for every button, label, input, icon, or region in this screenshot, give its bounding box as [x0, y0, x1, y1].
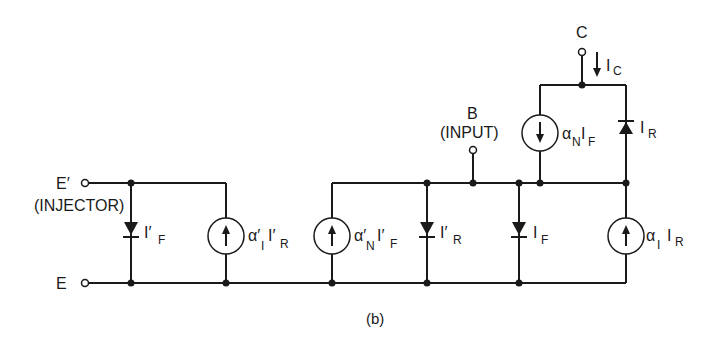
svg-text:I′: I′: [440, 224, 447, 241]
diode-icon: [619, 122, 633, 134]
terminal-e-label: E: [56, 275, 67, 292]
svg-text:C: C: [613, 64, 622, 78]
figure-caption: (b): [366, 310, 384, 327]
diode-icon: [124, 222, 138, 235]
terminal-e-prime-label: E′: [56, 175, 70, 192]
terminal-e-prime[interactable]: E′ (INJECTOR): [34, 175, 124, 214]
terminal-e[interactable]: E: [56, 275, 89, 292]
terminal-b-label: B: [467, 105, 478, 122]
diode-icon: [420, 222, 434, 235]
terminal-c[interactable]: C: [576, 24, 588, 56]
arrow-down-icon: [593, 68, 601, 77]
svg-text:I: I: [261, 239, 264, 253]
terminal-e-prime-sublabel: (INJECTOR): [34, 197, 124, 214]
diode-icon: [512, 222, 526, 235]
svg-text:N: N: [366, 239, 375, 253]
svg-text:N: N: [572, 135, 581, 149]
svg-text:F: F: [541, 233, 548, 247]
svg-text:I′: I′: [268, 227, 275, 244]
svg-text:α′: α′: [354, 227, 366, 244]
source-alpha-n-prime: α′ N I′ F: [314, 218, 397, 254]
wires: [89, 55, 626, 283]
terminal-b-sublabel: (INPUT): [440, 124, 499, 141]
svg-text:I: I: [667, 227, 671, 244]
svg-text:R: R: [648, 127, 657, 141]
svg-text:I: I: [606, 57, 610, 74]
svg-text:α: α: [646, 227, 655, 244]
svg-text:R: R: [280, 237, 289, 251]
source-alpha-i-prime: α′ I I′ R: [208, 218, 289, 254]
svg-text:F: F: [158, 233, 165, 247]
svg-text:α: α: [562, 125, 571, 142]
terminal-c-label: C: [576, 24, 588, 41]
svg-text:R: R: [453, 233, 462, 247]
diode-if-prime: I′ F: [123, 222, 165, 247]
svg-text:R: R: [675, 235, 684, 249]
svg-text:I: I: [581, 125, 585, 142]
svg-text:I′: I′: [377, 227, 384, 244]
svg-text:I: I: [657, 238, 660, 252]
svg-text:F: F: [390, 237, 397, 251]
source-alpha-i: α I I R: [608, 218, 684, 254]
svg-text:F: F: [588, 135, 595, 149]
collector-current-arrow: I C: [593, 52, 622, 78]
terminal-b[interactable]: B (INPUT): [440, 105, 499, 154]
svg-text:I: I: [533, 224, 537, 241]
svg-text:I: I: [640, 119, 644, 136]
svg-text:α′: α′: [248, 227, 260, 244]
diode-if: I F: [511, 222, 548, 247]
svg-text:I′: I′: [144, 224, 151, 241]
circuit-diagram: E′ (INJECTOR) E B (INPUT) C I C I′ F α′ …: [0, 0, 724, 346]
diode-ir: I R: [618, 119, 657, 141]
source-alpha-n: α N I F: [522, 115, 595, 151]
diode-ir-prime: I′ R: [419, 222, 462, 247]
